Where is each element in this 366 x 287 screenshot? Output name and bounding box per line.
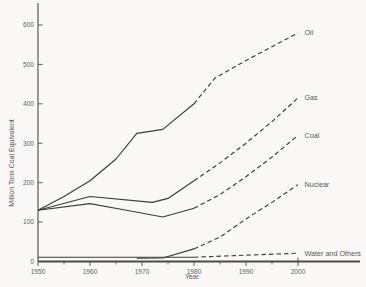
x-tick-label: 1950	[31, 268, 46, 275]
series-line-dashed-water-and-others	[194, 253, 298, 257]
series-line-dashed-gas	[194, 98, 298, 181]
series-line-dashed-coal	[194, 135, 298, 208]
series-line-solid-oil	[38, 104, 194, 211]
x-tick-label: 2000	[291, 268, 306, 275]
x-axis-title: Year	[185, 273, 200, 280]
series-layer	[38, 33, 298, 258]
series-label-nuclear: Nuclear	[305, 180, 330, 189]
series-line-dashed-nuclear	[194, 185, 298, 249]
y-tick-label: 400	[23, 100, 34, 107]
chart-canvas: 0100200300400500600195019601970198019902…	[0, 0, 366, 287]
series-line-solid-coal	[38, 204, 194, 217]
labels-layer: 0100200300400500600195019601970198019902…	[23, 21, 361, 275]
y-tick-label: 200	[23, 179, 34, 186]
series-label-water-and-others: Water and Others	[305, 249, 362, 258]
x-tick-label: 1990	[239, 268, 254, 275]
y-tick-label: 300	[23, 140, 34, 147]
energy-projection-figure: 0100200300400500600195019601970198019902…	[0, 0, 366, 287]
y-axis-title: Million Tons Coal Equivalent	[8, 119, 16, 206]
y-tick-label: 0	[30, 258, 34, 265]
y-tick-label: 600	[23, 21, 34, 28]
series-label-coal: Coal	[305, 131, 320, 140]
series-line-dashed-oil	[194, 33, 298, 104]
x-tick-label: 1960	[83, 268, 98, 275]
x-tick-label: 1970	[135, 268, 150, 275]
y-tick-label: 500	[23, 61, 34, 68]
y-tick-label: 100	[23, 218, 34, 225]
series-line-solid-gas	[38, 181, 194, 211]
series-label-gas: Gas	[305, 93, 319, 102]
series-label-oil: Oil	[305, 28, 314, 37]
